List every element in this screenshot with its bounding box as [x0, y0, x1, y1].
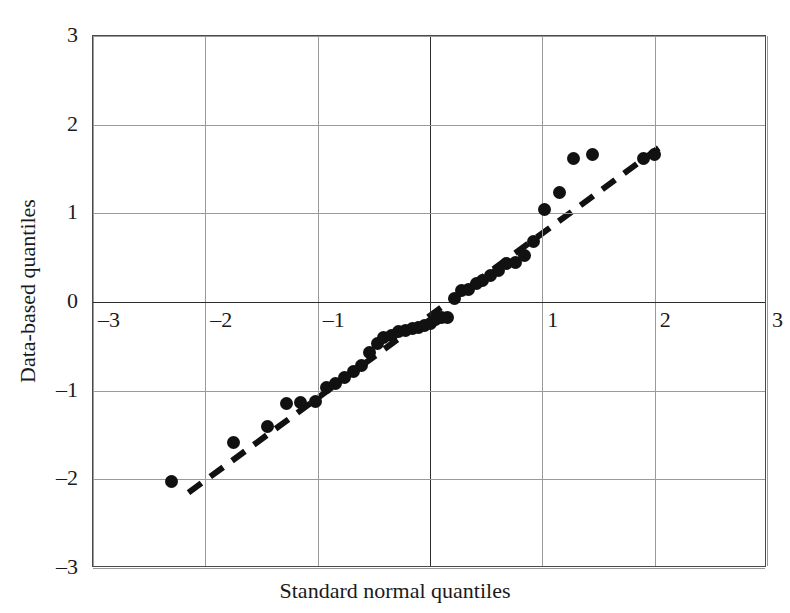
x-tick-label: 2	[660, 309, 671, 331]
y-axis-zero-line	[93, 302, 765, 303]
gridline-horizontal	[93, 125, 765, 126]
y-tick-label: –3	[0, 556, 78, 578]
data-point	[355, 359, 368, 372]
y-tick-label: –2	[0, 467, 78, 489]
gridline-horizontal	[93, 36, 765, 37]
gridline-vertical	[767, 36, 768, 566]
data-point	[553, 186, 566, 199]
data-point	[441, 311, 454, 324]
qq-plot-figure: Standard normal quantiles Data-based qua…	[0, 0, 790, 613]
data-point	[518, 249, 531, 262]
data-point	[648, 148, 661, 161]
gridline-vertical	[93, 36, 94, 566]
data-point	[294, 396, 307, 409]
data-point	[261, 420, 274, 433]
gridline-vertical	[205, 36, 206, 566]
x-axis-title: Standard normal quantiles	[0, 578, 790, 604]
gridline-vertical	[318, 36, 319, 566]
y-tick-label: 0	[0, 290, 78, 312]
data-point	[165, 475, 178, 488]
y-tick-label: 1	[0, 201, 78, 223]
y-tick-label: 2	[0, 113, 78, 135]
data-point	[527, 235, 540, 248]
x-tick-label: 1	[547, 309, 558, 331]
x-axis-zero-line	[430, 36, 431, 566]
data-point	[567, 152, 580, 165]
gridline-vertical	[655, 36, 656, 566]
gridline-horizontal	[93, 568, 765, 569]
x-tick-label: –2	[210, 309, 232, 331]
data-point	[227, 436, 240, 449]
x-tick-label: 3	[772, 309, 783, 331]
gridline-vertical	[542, 36, 543, 566]
x-tick-label: –3	[98, 309, 120, 331]
y-tick-label: 3	[0, 24, 78, 46]
gridline-horizontal	[93, 213, 765, 214]
data-point	[309, 395, 322, 408]
plot-area	[92, 35, 766, 567]
y-tick-label: –1	[0, 379, 78, 401]
data-point	[586, 148, 599, 161]
gridline-horizontal	[93, 391, 765, 392]
data-point	[538, 203, 551, 216]
x-tick-label: –1	[323, 309, 345, 331]
data-point	[280, 397, 293, 410]
gridline-horizontal	[93, 479, 765, 480]
